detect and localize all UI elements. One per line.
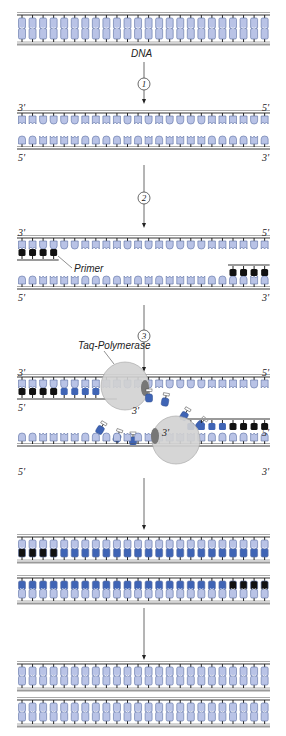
polymerase-3prime-label: 3' [132,406,139,416]
end-label-5prime: 5' [18,403,25,413]
end-label-5prime: 5' [18,153,25,163]
taq-polymerase-blob [152,416,200,464]
polymerase-3prime-label: 3' [162,428,169,438]
step-1-circle: 1 [138,78,150,90]
step-2-circle: 2 [138,192,150,204]
free-nucleotide [161,393,170,407]
end-label-5prime: 5' [18,293,25,303]
svg-text:2: 2 [142,193,147,203]
taq-polymerase-label: Taq-Polymerase [78,341,150,351]
end-label-3prime: 3' [262,153,269,163]
pcr-diagram: 123 DNA 3' 5' 5' 3' 3' 5' Primer 5' 3' T… [0,0,286,736]
end-label-5prime: 5' [262,103,269,113]
end-label-5prime: 5' [262,428,269,438]
pcr-diagram-svg: 123 [0,0,286,736]
primer-label: Primer [74,264,103,274]
end-label-5prime: 5' [18,467,25,477]
end-label-5prime: 5' [262,228,269,238]
svg-text:1: 1 [142,79,147,89]
dna-label: DNA [131,49,152,59]
end-label-3prime: 3' [18,368,25,378]
end-label-3prime: 3' [262,293,269,303]
end-label-3prime: 3' [18,228,25,238]
end-label-3prime: 3' [18,103,25,113]
end-label-5prime: 5' [262,368,269,378]
end-label-3prime: 3' [262,467,269,477]
free-nucleotide [146,389,153,402]
